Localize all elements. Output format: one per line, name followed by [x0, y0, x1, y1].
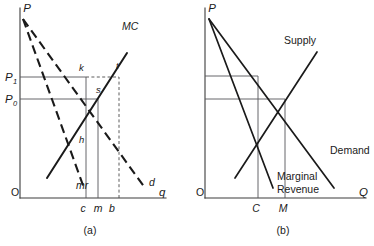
panel-a-tick-label-b: b — [109, 202, 115, 214]
panel-a-price-label-p0-sub: 0 — [13, 99, 18, 108]
panel-b-marginal-revenue-label-line2: Revenue — [277, 183, 319, 195]
panel-a-point-t-label: t — [116, 60, 119, 71]
panel-a-demand-curve — [23, 19, 145, 188]
panel-b-y-axis-label: P — [208, 2, 216, 14]
panel-a-caption: (a) — [84, 224, 97, 236]
panel-b-origin-label: O — [196, 186, 204, 198]
panel-a-price-label-p1-base: P — [5, 71, 13, 83]
economics-figure: P O q P 1 P 0 MC d mr k t s h c m b (a — [0, 0, 374, 246]
panel-b-demand-label: Demand — [330, 144, 370, 156]
panel-a-point-s-label: s — [96, 84, 101, 95]
panel-b-caption: (b) — [277, 224, 290, 236]
panel-b-x-axis-label: Q — [359, 186, 368, 198]
panel-a-demand-label: d — [149, 176, 156, 188]
panel-a-point-k-label: k — [79, 62, 85, 73]
panel-a: P O q P 1 P 0 MC d mr k t s h c m b (a — [5, 2, 166, 236]
figure-canvas: P O q P 1 P 0 MC d mr k t s h c m b (a — [0, 0, 374, 246]
panel-a-price-label-p0-base: P — [5, 93, 13, 105]
panel-a-marginal-revenue-curve — [23, 19, 84, 188]
panel-b-supply-label: Supply — [284, 34, 317, 46]
panel-a-marginal-revenue-label: mr — [76, 179, 89, 191]
panel-b-marginal-revenue-label: Marginal Revenue — [277, 170, 319, 195]
panel-b-marginal-revenue-label-line1: Marginal — [277, 170, 317, 182]
panel-b-tick-label-c: C — [252, 202, 260, 214]
panel-a-tick-label-c: c — [80, 202, 86, 214]
panel-a-price-label-p1-sub: 1 — [13, 77, 17, 86]
panel-a-tick-label-m: m — [94, 202, 103, 214]
panel-a-y-axis-label: P — [23, 2, 31, 14]
panel-a-marginal-cost-label: MC — [122, 20, 139, 32]
panel-a-price-label-p0: P 0 — [5, 93, 18, 108]
panel-a-x-axis-label: q — [159, 186, 166, 198]
panel-b-tick-label-m: M — [279, 202, 288, 214]
panel-b: P O Q Supply Demand Marginal Revenue C M… — [196, 2, 370, 236]
panel-a-price-label-p1: P 1 — [5, 71, 17, 86]
panel-a-marginal-cost-curve — [47, 53, 127, 178]
panel-b-marginal-revenue-curve — [209, 19, 273, 188]
panel-a-point-h-label: h — [79, 134, 84, 145]
panel-a-origin-label: O — [11, 186, 19, 198]
